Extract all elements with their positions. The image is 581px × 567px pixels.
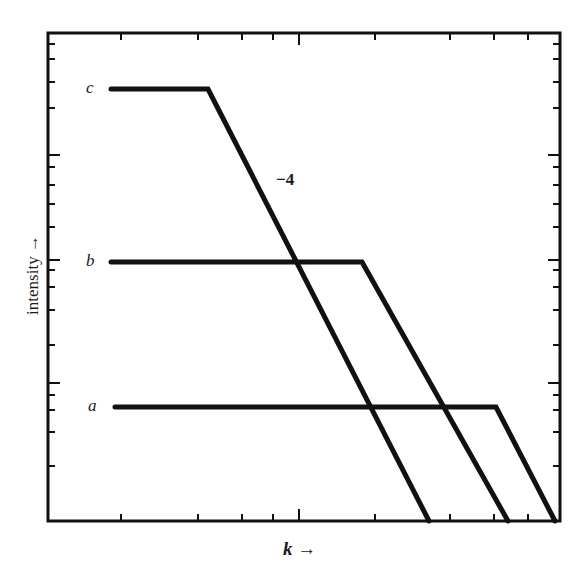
curve-a [115, 407, 555, 521]
curve-c [111, 89, 429, 521]
curve-label-b: b [86, 251, 95, 271]
x-axis-label: k → [283, 538, 316, 560]
curves [111, 89, 555, 521]
curve-b [111, 262, 508, 521]
x-axis-symbol: k [283, 538, 293, 559]
curve-label-a: a [88, 396, 97, 416]
x-axis-arrow: → [293, 538, 317, 559]
y-axis-label: intensity → [23, 220, 43, 330]
slope-annotation: −4 [276, 170, 294, 190]
curve-label-c: c [86, 78, 94, 98]
